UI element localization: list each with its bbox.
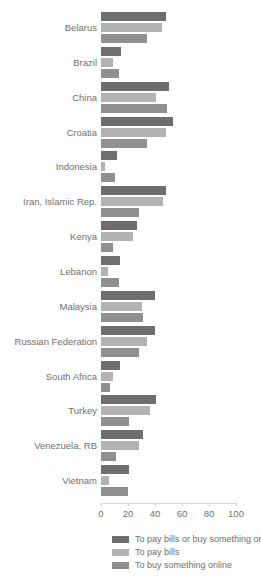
bar xyxy=(101,465,129,474)
legend-label: To pay bills or buy something online xyxy=(135,534,261,545)
bar xyxy=(101,291,155,300)
bar-group xyxy=(101,186,236,217)
axis-tick-label: 0 xyxy=(98,508,103,519)
category-label: Croatia xyxy=(1,127,97,138)
chart-legend: To pay bills or buy something onlineTo p… xyxy=(112,534,261,573)
bar xyxy=(101,186,166,195)
axis-line xyxy=(101,503,236,504)
bar xyxy=(101,12,166,21)
axis-tick xyxy=(128,503,129,506)
bar xyxy=(101,372,113,381)
category-axis: BelarusBrazilChinaCroatiaIndonesiaIran, … xyxy=(0,12,97,500)
axis-tick-label: 40 xyxy=(150,508,161,519)
category-label: China xyxy=(1,92,97,103)
legend-item: To pay bills xyxy=(112,547,261,558)
bar-group xyxy=(101,395,236,426)
bar-group xyxy=(101,221,236,252)
bar-group xyxy=(101,82,236,113)
legend-label: To buy something online xyxy=(135,560,232,571)
bar-group xyxy=(101,117,236,148)
category-label: Turkey xyxy=(1,405,97,416)
bar xyxy=(101,208,139,217)
bar xyxy=(101,139,147,148)
axis-tick-label: 20 xyxy=(123,508,134,519)
category-label: Venezuela, RB xyxy=(1,440,97,451)
legend-swatch xyxy=(112,549,129,556)
bar xyxy=(101,221,137,230)
category-label: Indonesia xyxy=(1,161,97,172)
bar-group xyxy=(101,465,236,496)
bar xyxy=(101,441,139,450)
bar xyxy=(101,117,173,126)
bar-group xyxy=(101,151,236,182)
bar-group xyxy=(101,256,236,287)
bar-group xyxy=(101,326,236,357)
bar-group xyxy=(101,47,236,78)
category-label: Belarus xyxy=(1,22,97,33)
bar xyxy=(101,104,167,113)
bar xyxy=(101,128,166,137)
bar xyxy=(101,267,108,276)
bar xyxy=(101,34,147,43)
bar xyxy=(101,93,156,102)
bar xyxy=(101,337,147,346)
bar xyxy=(101,243,113,252)
bar-group xyxy=(101,430,236,461)
bar xyxy=(101,417,129,426)
category-label: Lebanon xyxy=(1,266,97,277)
axis-tick-label: 100 xyxy=(228,508,244,519)
category-label: Russian Federation xyxy=(1,336,97,347)
bar xyxy=(101,197,163,206)
bar xyxy=(101,58,113,67)
legend-item: To pay bills or buy something online xyxy=(112,534,261,545)
bar-chart: BelarusBrazilChinaCroatiaIndonesiaIran, … xyxy=(0,0,261,582)
legend-swatch xyxy=(112,562,129,569)
axis-tick xyxy=(101,503,102,506)
bar xyxy=(101,326,155,335)
bar xyxy=(101,430,143,439)
axis-tick xyxy=(236,503,237,506)
bar-group xyxy=(101,12,236,43)
bar xyxy=(101,278,119,287)
category-label: Vietnam xyxy=(1,475,97,486)
bar xyxy=(101,487,128,496)
bar-group xyxy=(101,291,236,322)
bar xyxy=(101,69,119,78)
bar xyxy=(101,232,133,241)
legend-label: To pay bills xyxy=(135,547,180,558)
category-label: Brazil xyxy=(1,57,97,68)
category-label: Iran, Islamic Rep. xyxy=(1,196,97,207)
axis-tick xyxy=(209,503,210,506)
category-label: South Africa xyxy=(1,371,97,382)
bar xyxy=(101,162,105,171)
bar xyxy=(101,302,142,311)
bar xyxy=(101,452,116,461)
bar xyxy=(101,82,169,91)
bar-group xyxy=(101,361,236,392)
bar xyxy=(101,151,117,160)
bar xyxy=(101,256,120,265)
bar xyxy=(101,361,120,370)
axis-tick xyxy=(155,503,156,506)
axis-tick-label: 60 xyxy=(177,508,188,519)
bar xyxy=(101,47,121,56)
x-axis: 020406080100 xyxy=(101,503,236,525)
category-label: Kenya xyxy=(1,231,97,242)
category-label: Malaysia xyxy=(1,301,97,312)
axis-tick xyxy=(182,503,183,506)
bar xyxy=(101,383,110,392)
bar xyxy=(101,23,162,32)
bar xyxy=(101,313,143,322)
bar xyxy=(101,476,109,485)
bar xyxy=(101,406,150,415)
legend-swatch xyxy=(112,536,129,543)
bar xyxy=(101,348,139,357)
axis-tick-label: 80 xyxy=(204,508,215,519)
plot-area xyxy=(101,12,236,500)
legend-item: To buy something online xyxy=(112,560,261,571)
bar xyxy=(101,395,156,404)
bar xyxy=(101,173,115,182)
